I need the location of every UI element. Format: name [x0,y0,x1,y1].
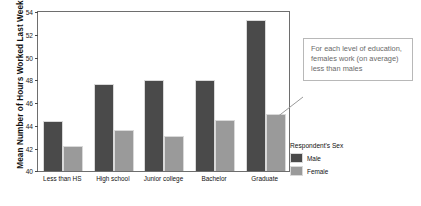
bar-group [190,12,241,171]
bar-group [89,12,140,171]
bar-chart: Mean Number of Hours Worked Last Week 54… [0,0,421,206]
bar-female [215,120,235,171]
x-axis-label: Bachelor [201,175,226,182]
y-tick-54: 54 [26,3,38,21]
bar-male [43,121,63,171]
y-tick-label: 42 [26,146,33,153]
plot-area: 54 52 50 48 46 44 42 40 [37,11,290,172]
y-tick-label: 48 [26,77,33,84]
bar-male [94,84,114,171]
x-axis-label: Graduate [251,175,278,182]
annotation-callout: For each level of education, females wor… [303,38,413,81]
legend-swatch-female-icon [290,166,303,176]
legend-label-male: Male [307,155,321,162]
bar-female [63,146,83,171]
x-axis-label: High school [96,175,129,182]
y-tick-50: 50 [26,48,38,66]
legend-item-female[interactable]: Female [290,166,343,176]
y-tick-48: 48 [26,71,38,89]
y-tick-mark [35,171,38,172]
y-axis-title: Mean Number of Hours Worked Last Week [16,0,25,175]
bar-male [144,80,164,171]
legend-title: Respondent's Sex [290,142,343,149]
y-tick-40: 40 [26,162,38,180]
x-axis-label: Less than HS [43,175,81,182]
bar-group [139,12,190,171]
bar-female [266,114,286,171]
legend: Respondent's Sex Male Female [290,142,343,179]
y-tick-label: 52 [26,32,33,39]
y-tick-46: 46 [26,94,38,112]
y-tick-label: 46 [26,100,33,107]
bar-male [195,80,215,171]
bar-male [246,20,266,171]
bar-group [38,12,89,171]
bar-female [164,136,184,171]
legend-item-male[interactable]: Male [290,153,343,163]
y-tick-42: 42 [26,139,38,157]
x-axis-label: Junior college [144,175,183,182]
y-tick-label: 54 [26,9,33,16]
bar-group [240,12,291,171]
y-tick-44: 44 [26,117,38,135]
y-tick-52: 52 [26,26,38,44]
legend-label-female: Female [307,168,328,175]
y-tick-label: 44 [26,123,33,130]
y-tick-label: 40 [26,168,33,175]
y-tick-label: 50 [26,55,33,62]
bar-female [114,130,134,171]
legend-swatch-male-icon [290,153,303,163]
